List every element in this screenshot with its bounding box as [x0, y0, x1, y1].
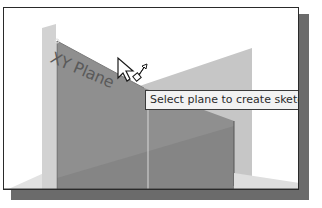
lower-left-plane [4, 173, 44, 190]
select-plane-cursor-icon [116, 56, 152, 86]
graphics-viewport[interactable]: XY Plane Select plane to create sketch o… [3, 7, 299, 190]
screenshot-stage: XY Plane Select plane to create sketch o… [0, 0, 322, 208]
tooltip: Select plane to create sketch or [145, 90, 299, 110]
ground-plane [234, 173, 299, 190]
